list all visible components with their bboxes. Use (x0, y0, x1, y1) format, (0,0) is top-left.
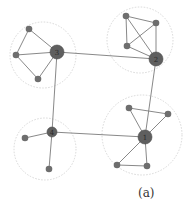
hub-label: 3 (55, 49, 59, 57)
graph-edges (16, 16, 168, 169)
graph-edge (127, 23, 156, 46)
leaf-node (123, 13, 130, 20)
hub-node-3: 3 (50, 45, 64, 59)
graph-edge (52, 132, 145, 137)
graph-edge (57, 52, 156, 59)
graph-edge (117, 165, 147, 166)
hub-label: 1 (143, 134, 147, 142)
leaf-node (46, 166, 53, 173)
leaf-node (35, 76, 42, 83)
graph-edge (145, 59, 156, 137)
graph-edge (49, 132, 52, 169)
network-graph: 1234 (0, 0, 194, 214)
hub-node-4: 4 (47, 127, 57, 137)
network-figure: 1234 (a) (0, 0, 194, 214)
cluster-circle (107, 7, 173, 73)
leaf-node (114, 162, 121, 169)
hub-nodes: 1234 (47, 45, 163, 144)
leaf-node (13, 52, 20, 59)
leaf-node (165, 111, 172, 118)
hub-label: 2 (154, 56, 158, 64)
leaf-node (126, 105, 133, 112)
figure-caption: (a) (138, 186, 155, 200)
hub-node-2: 2 (149, 52, 163, 66)
leaf-node (124, 43, 131, 50)
leaf-node (22, 135, 29, 142)
leaf-nodes (13, 13, 172, 173)
cluster-circle (14, 118, 76, 180)
graph-edge (126, 16, 127, 46)
leaf-node (144, 163, 151, 170)
graph-edge (16, 55, 38, 79)
hub-label: 4 (50, 129, 55, 137)
hub-node-1: 1 (138, 130, 152, 144)
leaf-node (26, 26, 33, 33)
leaf-node (153, 20, 160, 27)
